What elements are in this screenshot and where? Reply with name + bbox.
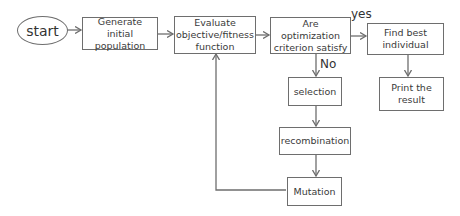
arrow-mutation-evaluate — [216, 54, 286, 190]
no-edge-label: No — [320, 57, 336, 71]
criterion-node: Are optimization criterion satisfy — [270, 17, 351, 54]
generate-population-node: Generate initial population — [82, 17, 158, 50]
mutation-node: Mutation — [287, 177, 342, 206]
recombination-node: recombination — [279, 127, 351, 155]
find-best-label: Find best individual — [376, 27, 436, 51]
print-result-node: Print the result — [379, 77, 444, 111]
mutation-label: Mutation — [294, 186, 336, 198]
start-label: start — [26, 25, 59, 37]
evaluate-fitness-node: Evaluate objective/fitness function — [174, 16, 256, 54]
start-node: start — [17, 16, 68, 45]
print-label: Print the result — [387, 82, 437, 106]
selection-label: selection — [294, 86, 337, 98]
evaluate-label: Evaluate objective/fitness function — [175, 17, 255, 53]
recombination-label: recombination — [281, 135, 350, 147]
selection-node: selection — [288, 77, 342, 106]
criterion-label: Are optimization criterion satisfy — [273, 18, 349, 54]
generate-label: Generate initial population — [87, 16, 153, 52]
yes-edge-label: yes — [351, 7, 372, 21]
find-best-node: Find best individual — [367, 23, 444, 55]
